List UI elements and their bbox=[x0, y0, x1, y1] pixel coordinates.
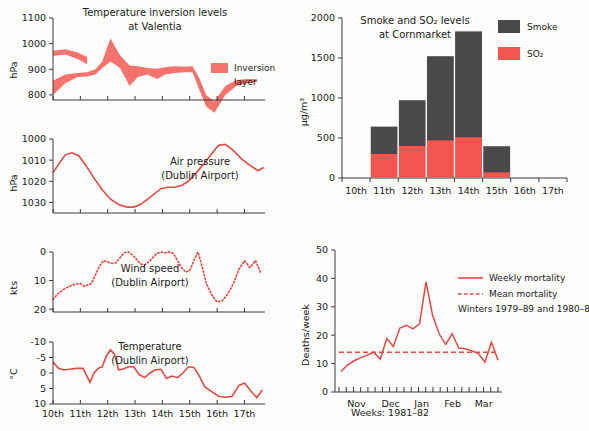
svg-text:14th: 14th bbox=[151, 408, 173, 419]
svg-text:500: 500 bbox=[317, 132, 335, 143]
svg-text:1020: 1020 bbox=[22, 176, 46, 187]
svg-text:1010: 1010 bbox=[22, 155, 46, 166]
svg-text:5: 5 bbox=[40, 383, 46, 394]
svg-text:1000: 1000 bbox=[311, 92, 335, 103]
bars-group bbox=[370, 31, 511, 178]
svg-text:1000: 1000 bbox=[22, 38, 46, 49]
svg-text:13th: 13th bbox=[430, 185, 452, 196]
svg-text:10: 10 bbox=[34, 275, 46, 286]
chart-wind-speed: 01020 kts Wind speed (Dublin Airport) bbox=[0, 240, 295, 332]
panel-title-line1: Wind speed bbox=[121, 263, 180, 274]
panel-title-line2: at Cornmarket bbox=[379, 29, 451, 40]
y-axis-label: kts bbox=[8, 281, 19, 295]
svg-text:1500: 1500 bbox=[311, 52, 335, 63]
svg-text:13th: 13th bbox=[124, 408, 146, 419]
svg-text:1100: 1100 bbox=[22, 12, 46, 23]
svg-text:0: 0 bbox=[329, 172, 335, 183]
legend-label-smoke: Smoke bbox=[527, 22, 558, 32]
inversion-band-lower bbox=[53, 49, 87, 64]
legend-label-weekly: Weekly mortality bbox=[489, 273, 566, 283]
panel-title-line2: (Dublin Airport) bbox=[161, 170, 239, 181]
panel-title-line1: Temperature inversion levels bbox=[82, 7, 227, 18]
chart-mortality: 01020304050NovDecJanFebMar Deaths/week W… bbox=[295, 230, 589, 431]
svg-text:17th: 17th bbox=[234, 408, 256, 419]
chart-air-pressure: 1000101010201030 hPa Air pressure (Dubli… bbox=[0, 125, 295, 235]
panel-title-line1: Air pressure bbox=[170, 156, 230, 167]
svg-text:15th: 15th bbox=[179, 408, 201, 419]
svg-text:15th: 15th bbox=[486, 185, 508, 196]
svg-text:10th: 10th bbox=[345, 185, 367, 196]
svg-text:11th: 11th bbox=[69, 408, 91, 419]
svg-text:11th: 11th bbox=[373, 185, 395, 196]
svg-text:12th: 12th bbox=[401, 185, 423, 196]
panel-title-line2: at Valentia bbox=[128, 21, 182, 32]
svg-text:2000: 2000 bbox=[311, 12, 335, 23]
legend-note: Winters 1979–89 and 1980–81 bbox=[458, 304, 589, 314]
weekly-mortality-line bbox=[341, 282, 498, 372]
panel-title-line1: Temperature bbox=[117, 341, 181, 352]
inversion-band-upper bbox=[53, 39, 257, 113]
svg-text:12th: 12th bbox=[97, 408, 119, 419]
panel-title-line2: (Dublin Airport) bbox=[111, 355, 189, 366]
svg-text:10th: 10th bbox=[42, 408, 64, 419]
svg-text:10: 10 bbox=[316, 358, 328, 369]
svg-text:20: 20 bbox=[316, 330, 328, 341]
svg-text:16th: 16th bbox=[206, 408, 228, 419]
svg-text:1000: 1000 bbox=[22, 133, 46, 144]
chart-smoke-so2: 050010001500200010th11th12th13th14th15th… bbox=[295, 0, 589, 225]
svg-text:50: 50 bbox=[316, 244, 328, 255]
chart-temperature: -10-5051010th11th12th13th14th15th16th17t… bbox=[0, 332, 295, 431]
svg-text:0: 0 bbox=[40, 246, 46, 257]
legend-swatch-inversion bbox=[211, 63, 228, 73]
svg-text:-5: -5 bbox=[37, 352, 46, 363]
svg-text:0: 0 bbox=[40, 367, 46, 378]
y-axis-label: hPa bbox=[8, 61, 19, 78]
panel-smoke-so2: 050010001500200010th11th12th13th14th15th… bbox=[295, 0, 589, 225]
svg-text:1030: 1030 bbox=[22, 197, 46, 208]
legend-swatch-smoke bbox=[498, 20, 520, 33]
svg-text:16th: 16th bbox=[514, 185, 536, 196]
legend-label-inversion-line1: Inversion bbox=[234, 63, 275, 73]
legend-label-mean: Mean mortality bbox=[489, 289, 558, 299]
svg-text:0: 0 bbox=[322, 386, 328, 397]
panel-temperature: -10-5051010th11th12th13th14th15th16th17t… bbox=[0, 332, 295, 431]
y-axis-label: µg/m³ bbox=[298, 98, 309, 127]
svg-text:40: 40 bbox=[316, 273, 328, 284]
svg-text:800: 800 bbox=[28, 89, 46, 100]
svg-text:-10: -10 bbox=[30, 336, 46, 347]
svg-text:20: 20 bbox=[34, 304, 46, 315]
y-axis-label: Deaths/week bbox=[300, 304, 311, 366]
legend-label-inversion-line2: layer bbox=[234, 77, 257, 87]
panel-title-line2: (Dublin Airport) bbox=[111, 277, 189, 288]
panel-title-line1: Smoke and SO₂ levels bbox=[360, 15, 469, 26]
svg-text:30: 30 bbox=[316, 301, 328, 312]
panel-temperature-inversion: 80090010001100 hPa Temperature inversion… bbox=[0, 0, 295, 125]
y-axis-label: hPa bbox=[8, 174, 19, 191]
svg-text:Feb: Feb bbox=[444, 398, 461, 409]
y-axis-label: °C bbox=[8, 368, 19, 380]
svg-text:Mar: Mar bbox=[475, 398, 493, 409]
svg-text:14th: 14th bbox=[458, 185, 480, 196]
svg-text:900: 900 bbox=[28, 64, 46, 75]
inversion-band-group bbox=[53, 39, 257, 113]
panel-mortality: 01020304050NovDecJanFebMar Deaths/week W… bbox=[295, 230, 589, 431]
chart-temperature-inversion: 80090010001100 hPa Temperature inversion… bbox=[0, 0, 295, 125]
x-axis-label: Weeks: 1981–82 bbox=[351, 407, 429, 418]
legend-label-so2: SO₂ bbox=[527, 49, 544, 59]
legend-swatch-so2 bbox=[498, 47, 520, 60]
svg-text:17th: 17th bbox=[542, 185, 564, 196]
panel-air-pressure: 1000101010201030 hPa Air pressure (Dubli… bbox=[0, 125, 295, 235]
panel-wind-speed: 01020 kts Wind speed (Dublin Airport) bbox=[0, 240, 295, 332]
